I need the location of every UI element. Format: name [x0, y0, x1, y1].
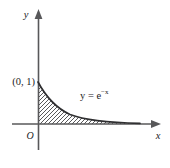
exponential-decay-figure: y x O (0, 1) y = e −x	[0, 0, 170, 168]
figure-canvas: y x O (0, 1) y = e −x	[0, 0, 170, 168]
exponential-curve	[38, 82, 140, 123]
x-axis-arrowhead	[151, 120, 161, 128]
y-intercept-label: (0, 1)	[12, 76, 35, 88]
origin-label: O	[26, 130, 33, 141]
curve-equation-label: y = e −x	[80, 88, 109, 101]
y-axis-label: y	[23, 9, 29, 20]
curve-equation-base: y = e	[80, 90, 101, 101]
y-axis-arrowhead	[35, 9, 43, 19]
curve-equation-exponent: −x	[101, 88, 109, 96]
x-axis-label: x	[155, 130, 161, 141]
